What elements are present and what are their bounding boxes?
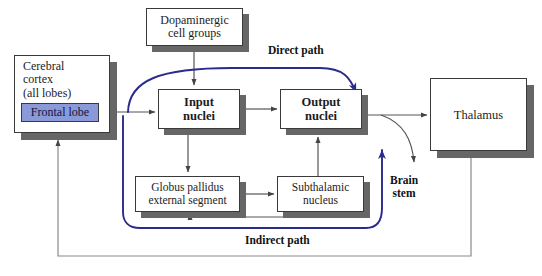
node-frontal-lobe-label: Frontal lobe bbox=[31, 105, 89, 120]
node-dopaminergic-cell-groups[interactable]: Dopaminergic cell groups bbox=[146, 8, 243, 46]
label-direct-path: Direct path bbox=[268, 44, 324, 57]
label-brain-stem: Brain stem bbox=[390, 174, 418, 200]
node-input-nuclei-label: Input nuclei bbox=[180, 95, 218, 123]
node-dopaminergic-cell-groups-label: Dopaminergic cell groups bbox=[157, 14, 231, 41]
label-indirect-path: Indirect path bbox=[245, 234, 310, 247]
node-frontal-lobe[interactable]: Frontal lobe bbox=[21, 103, 99, 122]
node-output-nuclei-label: Output nuclei bbox=[299, 95, 344, 123]
node-input-nuclei[interactable]: Input nuclei bbox=[158, 89, 240, 129]
edge-output-to-brain-stem bbox=[381, 115, 414, 162]
node-subthalamic-nucleus[interactable]: Subthalamic nucleus bbox=[277, 176, 364, 212]
node-thalamus-label: Thalamus bbox=[451, 108, 506, 122]
node-thalamus[interactable]: Thalamus bbox=[430, 78, 527, 151]
node-subthalamic-nucleus-label: Subthalamic nucleus bbox=[289, 181, 353, 207]
node-output-nuclei[interactable]: Output nuclei bbox=[280, 89, 362, 129]
node-globus-pallidus[interactable]: Globus pallidus external segment bbox=[135, 176, 240, 212]
node-globus-pallidus-label: Globus pallidus external segment bbox=[145, 181, 229, 207]
node-cerebral-cortex-label: Cerebral cortex (all lobes) bbox=[15, 56, 109, 100]
basal-ganglia-diagram: Cerebral cortex (all lobes) Frontal lobe… bbox=[0, 0, 542, 276]
